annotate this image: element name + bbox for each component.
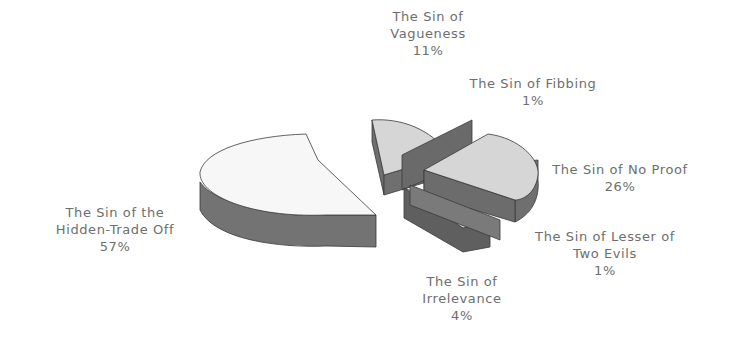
label-fibbing: The Sin of Fibbing 1% bbox=[458, 75, 608, 109]
slice-hidden-trade-off bbox=[200, 134, 376, 247]
label-irrelevance: The Sin of Irrelevance 4% bbox=[402, 273, 522, 324]
label-lesser-evils: The Sin of Lesser of Two Evils 1% bbox=[520, 228, 690, 279]
label-vagueness: The Sin of Vagueness 11% bbox=[378, 8, 478, 59]
label-no-proof: The Sin of No Proof 26% bbox=[535, 161, 705, 195]
label-hidden-trade-off: The Sin of the Hidden-Trade Off 57% bbox=[40, 204, 190, 255]
